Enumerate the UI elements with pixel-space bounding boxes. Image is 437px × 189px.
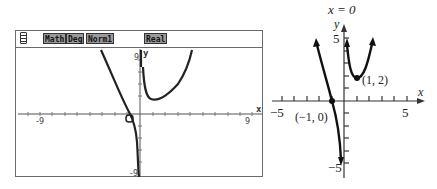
y-axis-label: y (143, 48, 149, 58)
point2-label: (−1, 0) (295, 110, 328, 124)
real-badge: Real (144, 33, 167, 44)
status-bar: Math Deg Norm1 Real (16, 31, 262, 48)
textbook-graph: x = 0 (1, 2) (−1, 0) −5 5 5 −5 x y (270, 0, 437, 189)
deg-badge: Deg (66, 33, 84, 44)
point1-label: (1, 2) (362, 73, 388, 87)
y-min-label: −5 (328, 160, 342, 175)
y-max-label: 9 (134, 53, 139, 62)
x-min-label: −5 (270, 105, 284, 120)
x-axis-label: x (256, 104, 262, 114)
calculator-screen: Math Deg Norm1 Real -9 9 9 -9 x y (15, 30, 263, 177)
x-axis-label: x (417, 85, 424, 99)
calculator-graph: -9 9 9 -9 x y (16, 47, 262, 177)
norm-badge: Norm1 (86, 33, 114, 44)
point-1-2 (354, 75, 360, 81)
y-min-label: -9 (130, 169, 138, 177)
math-badge: Math (43, 33, 66, 44)
y-axis-label: y (333, 17, 340, 31)
y-max-label: 5 (333, 31, 340, 46)
point-neg1-0 (329, 98, 335, 104)
x-max-label: 9 (245, 117, 250, 126)
battery-icon (20, 32, 27, 44)
x-min-label: -9 (36, 117, 44, 126)
asymptote-label: x = 0 (327, 2, 356, 17)
x-max-label: 5 (402, 105, 409, 120)
